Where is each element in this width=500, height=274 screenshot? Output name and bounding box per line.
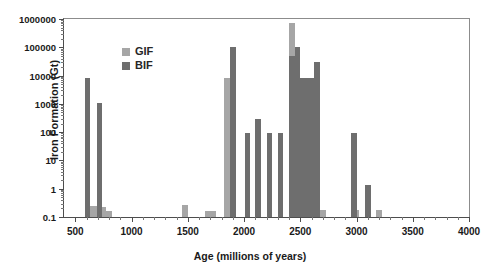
- y-axis-minor-tick: [61, 195, 64, 196]
- y-axis-minor-tick: [61, 208, 64, 209]
- x-axis-tick-label: 2000: [233, 226, 255, 237]
- x-axis-minor-tick: [98, 217, 99, 220]
- x-axis-title: Age (millions of years): [0, 250, 500, 262]
- y-axis-minor-tick: [61, 172, 64, 173]
- x-axis-minor-tick: [120, 217, 121, 220]
- y-axis-minor-tick: [61, 49, 64, 50]
- x-axis-minor-tick: [165, 217, 166, 220]
- x-axis-minor-tick: [289, 217, 290, 220]
- x-axis-tick: [75, 217, 76, 222]
- y-axis-minor-tick: [61, 25, 64, 26]
- chart-legend: GIF BIF: [122, 46, 153, 71]
- y-axis-minor-tick: [61, 52, 64, 53]
- x-axis-tick: [413, 217, 414, 222]
- y-axis-tick-label: 0.1: [43, 212, 56, 223]
- y-axis-minor-tick: [61, 22, 64, 23]
- y-axis-minor-tick: [61, 28, 64, 29]
- y-axis-minor-tick: [61, 152, 64, 153]
- x-axis-tick-label: 2500: [289, 226, 311, 237]
- x-axis-tick-label: 4000: [458, 226, 480, 237]
- bar-bif: [97, 103, 103, 217]
- y-axis-minor-tick: [61, 50, 64, 51]
- bar-bif: [278, 133, 284, 217]
- y-axis-minor-tick: [61, 119, 64, 120]
- y-axis-minor-tick: [61, 163, 64, 164]
- x-axis-tick-label: 500: [67, 226, 84, 237]
- y-axis-minor-tick: [61, 147, 64, 148]
- y-axis-minor-tick: [61, 59, 64, 60]
- y-axis-minor-tick: [61, 138, 64, 139]
- y-axis-minor-tick: [61, 204, 64, 205]
- x-axis-minor-tick: [345, 217, 346, 220]
- y-axis-minor-tick: [61, 56, 64, 57]
- y-axis-minor-tick: [61, 30, 64, 31]
- y-axis-minor-tick: [61, 107, 64, 108]
- y-axis-minor-tick: [61, 108, 64, 109]
- x-axis-tick: [300, 217, 301, 222]
- y-axis-minor-tick: [61, 190, 64, 191]
- bar-bif: [351, 133, 357, 217]
- y-axis-minor-tick: [61, 95, 64, 96]
- x-axis-minor-tick: [402, 217, 403, 220]
- y-axis-minor-tick: [61, 124, 64, 125]
- x-axis-minor-tick: [334, 217, 335, 220]
- y-axis-title: Iron Formation (Gt): [48, 10, 60, 210]
- y-axis-tick-label: 1000: [35, 98, 56, 109]
- legend-label-gif: GIF: [135, 46, 153, 57]
- x-axis-tick: [188, 217, 189, 222]
- x-axis-minor-tick: [379, 217, 380, 220]
- y-axis-minor-tick: [61, 110, 64, 111]
- x-axis-minor-tick: [447, 217, 448, 220]
- y-axis-minor-tick: [61, 20, 64, 21]
- x-axis-tick-label: 1500: [177, 226, 199, 237]
- y-axis-minor-tick: [61, 175, 64, 176]
- x-axis-tick-label: 3500: [402, 226, 424, 237]
- y-axis-minor-tick: [61, 82, 64, 83]
- y-axis-minor-tick: [61, 90, 64, 91]
- x-axis-minor-tick: [154, 217, 155, 220]
- y-axis-minor-tick: [61, 87, 64, 88]
- legend-item-gif: GIF: [122, 46, 153, 57]
- bar-gif: [182, 205, 188, 217]
- x-axis-minor-tick: [109, 217, 110, 220]
- x-axis-tick: [132, 217, 133, 222]
- y-axis-tick: [59, 76, 64, 77]
- y-axis-tick: [59, 19, 64, 20]
- chart-figure: Iron Formation (Gt) 0.111010010001000010…: [0, 0, 500, 274]
- y-axis-minor-tick: [61, 78, 64, 79]
- y-axis-minor-tick: [61, 137, 64, 138]
- y-axis-minor-tick: [61, 143, 64, 144]
- x-axis-minor-tick: [87, 217, 88, 220]
- y-axis-minor-tick: [61, 193, 64, 194]
- x-axis-tick: [244, 217, 245, 222]
- y-axis-minor-tick: [61, 115, 64, 116]
- y-axis-tick: [59, 217, 64, 218]
- y-axis-minor-tick: [61, 167, 64, 168]
- y-axis-tick: [59, 132, 64, 133]
- x-axis-minor-tick: [458, 217, 459, 220]
- y-axis-tick-label: 100000: [24, 42, 56, 53]
- y-axis-minor-tick: [61, 135, 64, 136]
- x-axis-minor-tick: [210, 217, 211, 220]
- bar-bif: [314, 62, 320, 217]
- x-axis-minor-tick: [267, 217, 268, 220]
- bar-bif: [365, 185, 371, 217]
- bar-bif: [255, 119, 261, 217]
- y-axis-tick-label: 1000000: [19, 14, 56, 25]
- y-axis-minor-tick: [61, 191, 64, 192]
- x-axis-tick: [469, 217, 470, 222]
- x-axis-minor-tick: [435, 217, 436, 220]
- x-axis-minor-tick: [143, 217, 144, 220]
- y-axis-minor-tick: [61, 39, 64, 40]
- x-axis-tick: [357, 217, 358, 222]
- y-axis-minor-tick: [61, 180, 64, 181]
- y-axis-tick-label: 1: [51, 183, 56, 194]
- y-axis-minor-tick: [61, 200, 64, 201]
- y-axis-minor-tick: [61, 105, 64, 106]
- x-axis-minor-tick: [222, 217, 223, 220]
- legend-swatch-bif: [122, 62, 130, 70]
- y-axis-minor-tick: [61, 133, 64, 134]
- bar-bif: [245, 133, 251, 217]
- y-axis-tick: [59, 47, 64, 48]
- y-axis-tick-label: 10000: [30, 70, 56, 81]
